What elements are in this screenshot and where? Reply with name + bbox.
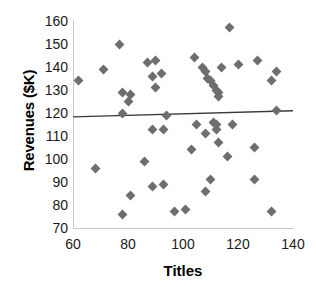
x-tick-label-100: 100 <box>163 237 203 251</box>
x-axis-title: Titles <box>73 262 293 279</box>
x-tick-label-120: 120 <box>218 237 258 251</box>
x-tick-label-60: 60 <box>53 237 93 251</box>
x-tick-label-140: 140 <box>273 237 313 251</box>
x-tick-label-80: 80 <box>108 237 148 251</box>
scatter-chart: Revenues ($K) 70809010011012013014015016… <box>0 0 316 287</box>
x-axis-tick-labels: 6080100120140 <box>0 0 316 287</box>
